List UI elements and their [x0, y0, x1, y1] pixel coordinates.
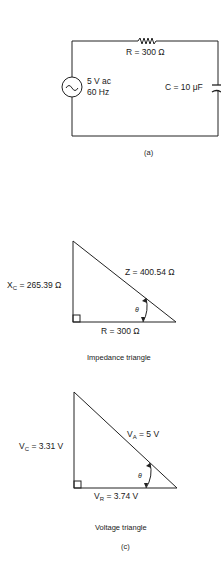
- impedance-theta-label: θ: [135, 306, 139, 313]
- vc-label: VC = 3.31 V: [19, 442, 63, 452]
- capacitor-label: C = 10 μF: [165, 83, 203, 92]
- voltage-theta-label: θ: [138, 472, 142, 479]
- source-frequency-label: 60 Hz: [87, 88, 109, 97]
- resistor-label: R = 300 Ω: [126, 48, 165, 57]
- voltage-triangle-title: Voltage triangle: [95, 524, 147, 532]
- resistor-icon: [138, 38, 158, 44]
- vc-value: = 3.31 V: [29, 441, 63, 451]
- vr-value: = 3.74 V: [104, 491, 138, 501]
- caption-a: (a): [144, 149, 153, 157]
- voltage-triangle: [74, 392, 177, 488]
- source-voltage-label: 5 V ac: [87, 77, 111, 86]
- impedance-triangle-title: Impedance triangle: [87, 354, 151, 362]
- vr-label: VR = 3.74 V: [94, 492, 138, 502]
- capacitor-icon: [212, 85, 221, 92]
- va-label: VA = 5 V: [127, 430, 159, 440]
- impedance-triangle: [73, 241, 176, 322]
- xc-value: = 265.39 Ω: [17, 280, 61, 290]
- impedance-base-label: R = 300 Ω: [101, 327, 140, 336]
- ac-source-icon: [62, 77, 82, 97]
- impedance-angle-arrows: [141, 298, 147, 322]
- xc-label: XC = 265.39 Ω: [7, 281, 61, 291]
- va-value: = 5 V: [137, 429, 159, 439]
- impedance-hypotenuse-label: Z = 400.54 Ω: [125, 268, 175, 277]
- voltage-angle-arrows: [144, 463, 151, 488]
- caption-c: (c): [121, 543, 130, 551]
